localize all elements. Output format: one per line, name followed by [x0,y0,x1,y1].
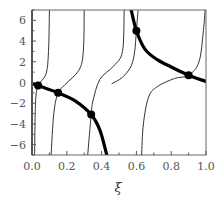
y-tick-label: 2 [19,56,26,69]
plot-series [32,10,206,155]
x-tick-label: 0.6 [128,160,146,173]
x-axis-ticks: 0.00.20.40.60.81.0 [23,151,215,173]
intersection-marker [185,71,193,79]
y-tick-label: −2 [10,97,26,110]
thick-branch-1-curve [32,84,107,156]
chart: 6420−2−4−6 0.00.20.40.60.81.0 ξ [0,0,222,202]
intersection-marker [87,111,95,119]
y-tick-label: 6 [19,14,26,27]
x-tick-label: 0.0 [23,160,41,173]
x-tick-label: 0.2 [58,160,76,173]
y-tick-label: −6 [10,139,26,152]
intersection-marker [54,89,62,97]
x-tick-label: 0.4 [93,160,111,173]
plot-markers [34,27,193,119]
intersection-marker [132,27,140,35]
thin-branch-c-curve [88,10,125,155]
x-tick-label: 0.8 [162,160,180,173]
thin-branch-b-curve [51,10,84,155]
y-tick-label: 0 [19,77,26,90]
plot-frame [32,10,206,155]
x-axis-label: ξ [114,180,122,195]
y-tick-label: 4 [19,35,26,48]
thin-branch-e-curve [142,10,206,155]
x-tick-label: 1.0 [197,160,215,173]
thick-branch-2-curve [131,10,206,82]
y-tick-label: −4 [10,118,26,131]
